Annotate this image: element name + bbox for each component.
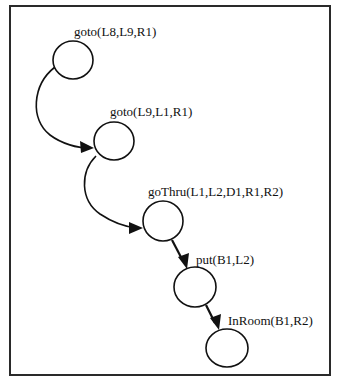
arrowhead-icon	[129, 222, 143, 234]
node-circle[interactable]	[143, 201, 183, 241]
node-label: goto(L8,L9,R1)	[74, 24, 156, 39]
edge-goto2-to-gothru	[84, 156, 137, 228]
node-circle[interactable]	[174, 267, 216, 307]
arrowhead-icon	[80, 141, 94, 153]
edge-goto1-to-goto2	[36, 67, 88, 148]
node-label: goThru(L1,L2,D1,R1,R2)	[148, 184, 283, 199]
node-goto-L8-L9-R1[interactable]: goto(L8,L9,R1)	[53, 24, 156, 79]
node-circle[interactable]	[53, 41, 93, 79]
node-circle[interactable]	[94, 122, 134, 160]
node-circle[interactable]	[206, 329, 248, 367]
node-label: InRoom(B1,R2)	[228, 313, 313, 328]
node-inroom-B1-R2[interactable]: InRoom(B1,R2)	[206, 313, 313, 367]
node-gothru-L1-L2-D1-R1-R2[interactable]: goThru(L1,L2,D1,R1,R2)	[143, 184, 283, 241]
node-label: put(B1,L2)	[196, 252, 254, 267]
plan-graph-diagram: goto(L8,L9,R1) goto(L9,L1,R1) goThru(L1,…	[0, 0, 340, 386]
node-label: goto(L9,L1,R1)	[110, 104, 192, 119]
node-goto-L9-L1-R1[interactable]: goto(L9,L1,R1)	[94, 104, 192, 160]
